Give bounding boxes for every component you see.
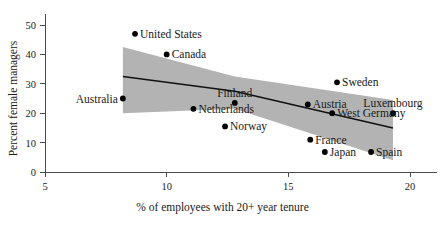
data-point-label: Luxembourg [363, 97, 422, 110]
data-point-label: Finland [217, 87, 252, 99]
x-tick-label: 20 [405, 181, 416, 192]
data-point-dot [164, 52, 170, 58]
y-tick-label: 30 [26, 79, 37, 90]
data-point-label: Sweden [342, 76, 379, 88]
x-axis-title: % of employees with 20+ year tenure [136, 201, 309, 214]
data-point-dot [305, 101, 311, 107]
x-tick-label: 5 [42, 181, 47, 192]
data-point-dot [120, 96, 126, 102]
x-tick-label: 10 [161, 181, 172, 192]
scatter-chart: 510152001020304050 United StatesCanadaAu… [0, 0, 440, 229]
chart-canvas: 510152001020304050 United StatesCanadaAu… [0, 0, 440, 229]
data-point-dot [334, 79, 340, 85]
y-tick-label: 20 [26, 108, 37, 119]
y-tick-label: 10 [26, 138, 37, 149]
data-point-label: Japan [330, 146, 356, 159]
data-point-dot [368, 149, 374, 155]
data-point-dot [329, 110, 335, 116]
y-tick-label: 0 [31, 167, 36, 178]
y-axis-title: Percent female managers [7, 40, 20, 156]
x-tick-label: 15 [283, 181, 294, 192]
data-point-dot [307, 137, 313, 143]
data-point-dot [322, 149, 328, 155]
data-point-dot [191, 106, 197, 112]
data-point-label: Spain [376, 146, 402, 159]
data-point-dot [132, 31, 138, 37]
confidence-band [123, 47, 393, 160]
data-point-label: United States [140, 28, 202, 40]
data-point-label: Norway [230, 120, 267, 133]
data-point-label: France [315, 134, 346, 146]
data-point-label: Canada [172, 48, 206, 60]
y-tick-label: 50 [26, 20, 37, 31]
data-point-label: Australia [76, 93, 118, 105]
y-tick-label: 40 [26, 49, 37, 60]
confidence-band-area [123, 47, 393, 160]
data-point-label: Netherlands [198, 103, 254, 115]
data-point-dot [222, 124, 228, 130]
